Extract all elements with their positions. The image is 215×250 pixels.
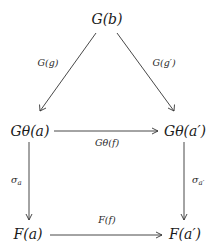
- node-f-of-a: F(a): [13, 226, 43, 242]
- commutative-diagram: G(b) Gθ(a) Gθ(a′) F(a) F(a′) G(g) G(g′) …: [0, 0, 215, 250]
- node-g-theta-of-a-prime: Gθ(a′): [164, 123, 206, 139]
- label-sigma-a-prime: σa′: [192, 174, 205, 187]
- arrow-g-theta-of-f: [54, 128, 158, 134]
- arrow-g-of-g-prime: [117, 33, 175, 111]
- sigma-subscript: a: [18, 179, 22, 187]
- label-f-of-f: F(f): [97, 214, 116, 225]
- arrow-f-of-f: [50, 232, 162, 238]
- label-g-of-g: G(g): [37, 57, 58, 68]
- label-g-of-g-prime: G(g′): [152, 57, 176, 68]
- node-g-of-b: G(b): [91, 11, 122, 27]
- arrow-g-of-g: [40, 33, 97, 111]
- sigma-subscript: a′: [199, 179, 205, 187]
- node-g-theta-of-a: Gθ(a): [11, 123, 50, 139]
- label-sigma-a: σa: [11, 174, 22, 187]
- arrow-sigma-a: [26, 142, 32, 220]
- arrow-line: [117, 33, 174, 111]
- arrow-sigma-a-prime: [181, 142, 187, 220]
- node-f-of-a-prime: F(a′): [168, 226, 201, 242]
- label-g-theta-of-f: Gθ(f): [95, 137, 120, 148]
- arrow-line: [40, 33, 96, 111]
